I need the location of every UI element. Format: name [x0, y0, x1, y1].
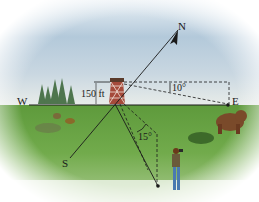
label-north: N [178, 21, 186, 32]
diagram-scene: W E N S 150 ft 10° 15° [0, 0, 259, 202]
fire-tower [109, 78, 125, 104]
point-east [226, 103, 230, 107]
diagram-svg [0, 0, 259, 202]
point-ground [156, 184, 160, 188]
label-tower-height: 150 ft [81, 89, 105, 99]
label-east: E [232, 96, 239, 107]
label-west: W [17, 96, 27, 107]
label-angle-bearing: 15° [138, 132, 152, 142]
label-angle-depression: 10° [172, 83, 186, 93]
label-south: S [62, 158, 68, 169]
